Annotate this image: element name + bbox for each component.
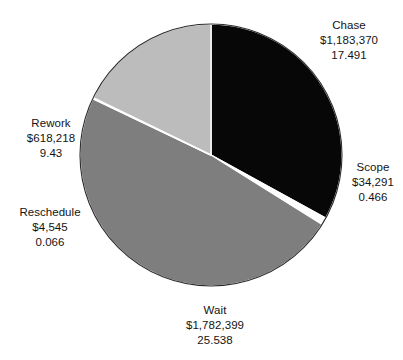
slice-label-scope: Scope $34,291 0.466 bbox=[344, 160, 402, 205]
pie-slices-group bbox=[80, 24, 342, 286]
slice-label-reschedule: Reschedule $4,545 0.066 bbox=[2, 205, 98, 250]
slice-label-scope-percent: 0.466 bbox=[344, 190, 402, 205]
slice-label-chase-name: Chase bbox=[299, 18, 399, 33]
slice-label-wait-percent: 25.538 bbox=[150, 333, 280, 348]
slice-label-rework-value: $618,218 bbox=[4, 131, 98, 146]
slice-label-reschedule-name: Reschedule bbox=[2, 205, 98, 220]
slice-label-chase-percent: 17.491 bbox=[299, 48, 399, 63]
slice-label-chase: Chase $1,183,370 17.491 bbox=[299, 18, 399, 63]
slice-label-wait: Wait $1,782,399 25.538 bbox=[150, 303, 280, 348]
slice-label-scope-name: Scope bbox=[344, 160, 402, 175]
slice-label-rework-percent: 9.43 bbox=[4, 146, 98, 161]
slice-label-wait-value: $1,782,399 bbox=[150, 318, 280, 333]
slice-label-reschedule-percent: 0.066 bbox=[2, 235, 98, 250]
slice-label-rework: Rework $618,218 9.43 bbox=[4, 116, 98, 161]
slice-label-scope-value: $34,291 bbox=[344, 175, 402, 190]
slice-label-rework-name: Rework bbox=[4, 116, 98, 131]
slice-label-reschedule-value: $4,545 bbox=[2, 220, 98, 235]
slice-label-chase-value: $1,183,370 bbox=[299, 33, 399, 48]
pie-chart: Chase $1,183,370 17.491 Scope $34,291 0.… bbox=[0, 0, 403, 360]
slice-label-wait-name: Wait bbox=[150, 303, 280, 318]
